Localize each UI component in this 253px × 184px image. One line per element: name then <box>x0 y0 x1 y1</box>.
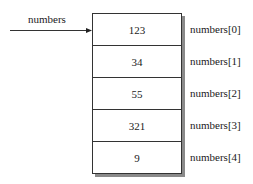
pointer-arrow-icon <box>10 28 92 33</box>
array-reference-label: numbers <box>28 13 66 25</box>
index-label-0: numbers[0] <box>190 13 241 45</box>
array-cell-4: 9 <box>93 142 181 173</box>
array-cell-3: 321 <box>93 110 181 142</box>
array-cell-2: 55 <box>93 78 181 110</box>
array-cell-0: 123 <box>93 14 181 46</box>
index-label-2: numbers[2] <box>190 77 241 109</box>
array-cell-1: 34 <box>93 46 181 78</box>
index-label-4: numbers[4] <box>190 141 241 173</box>
index-labels: numbers[0] numbers[1] numbers[2] numbers… <box>190 13 241 173</box>
index-label-1: numbers[1] <box>190 45 241 77</box>
index-label-3: numbers[3] <box>190 109 241 141</box>
array-box: 123 34 55 321 9 <box>92 13 182 174</box>
